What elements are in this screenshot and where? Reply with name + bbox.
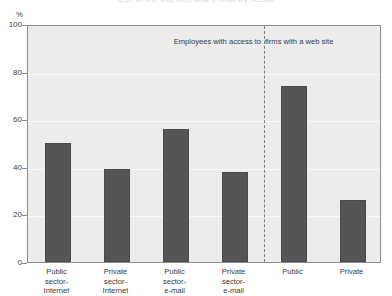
plot-annotation: firms with a web site: [265, 38, 333, 46]
plot-annotation: Employees with access to: [174, 38, 261, 46]
x-tick-label: Private: [322, 267, 381, 277]
bar: [281, 86, 307, 262]
bar: [222, 172, 248, 262]
bar: [340, 200, 366, 262]
y-tick-label: 40: [0, 164, 22, 172]
chart-title-sliver: Use of the Internet and e-mail by sector: [0, 0, 392, 2]
group-divider: [264, 26, 265, 262]
plot-area: Employees with access tofirms with a web…: [27, 25, 381, 263]
y-tick-label: 0: [0, 259, 22, 267]
y-tick-label: 20: [0, 211, 22, 219]
y-tick-label: 60: [0, 116, 22, 124]
x-tick-label: Public sector- e-mail: [145, 267, 204, 296]
gridline: [28, 74, 380, 75]
y-tick-label: 80: [0, 69, 22, 77]
x-tick-label: Public sector- Internet: [27, 267, 86, 296]
gridline: [28, 169, 380, 170]
y-tick-label: 100: [0, 21, 22, 29]
x-tick-label: Private sector- e-mail: [204, 267, 263, 296]
bar: [163, 129, 189, 262]
bar: [104, 169, 130, 262]
y-tick-mark: [22, 263, 27, 264]
x-tick-label: Public: [263, 267, 322, 277]
bar: [45, 143, 71, 262]
gridline: [28, 121, 380, 122]
gridline: [28, 216, 380, 217]
x-tick-label: Private sector- Internet: [86, 267, 145, 296]
y-axis-unit-label: %: [16, 10, 23, 19]
